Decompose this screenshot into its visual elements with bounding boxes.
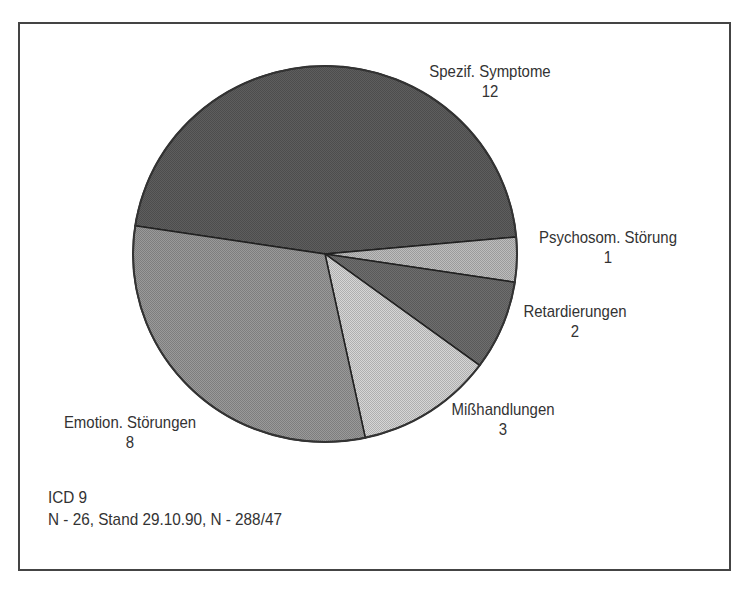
slice-name: Retardierungen (518, 302, 632, 322)
slice-name: Emotion. Störungen (51, 413, 209, 433)
slice-value: 8 (51, 433, 209, 453)
slice-value: 3 (446, 420, 560, 440)
footnote: ICD 9 N - 26, Stand 29.10.90, N - 288/47 (48, 487, 282, 531)
label-retardierungen: Retardierungen 2 (518, 302, 632, 342)
label-misshandlungen: Mißhandlungen 3 (446, 400, 560, 440)
label-spezif-symptome: Spezif. Symptome 12 (420, 62, 561, 102)
slice-name: Mißhandlungen (446, 400, 560, 420)
slice-value: 12 (420, 82, 561, 102)
slice-value: 1 (529, 248, 687, 268)
label-emotion-stoerungen: Emotion. Störungen 8 (51, 413, 209, 453)
label-psychosom-stoerung: Psychosom. Störung 1 (529, 228, 687, 268)
footnote-classification: ICD 9 (48, 487, 282, 509)
footnote-sample-info: N - 26, Stand 29.10.90, N - 288/47 (48, 509, 282, 531)
slice-name: Spezif. Symptome (420, 62, 561, 82)
slice-name: Psychosom. Störung (529, 228, 687, 248)
slice-value: 2 (518, 322, 632, 342)
